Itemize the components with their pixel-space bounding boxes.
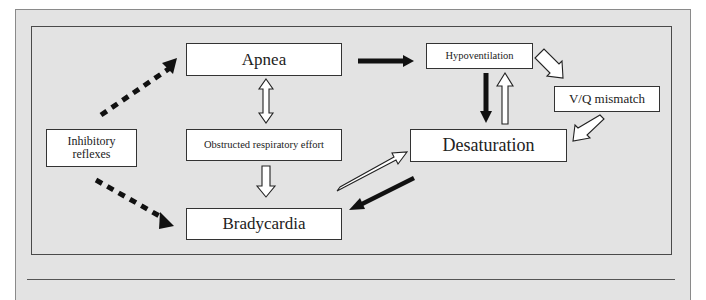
hollow-bidirectional-arrow-apnea-obstructed — [259, 79, 273, 123]
solid-arrow-apnea-to-hypoventilation — [358, 55, 414, 67]
node-bradycardia-label: Bradycardia — [222, 215, 305, 233]
node-apnea-label: Apnea — [242, 51, 286, 69]
node-hypoventilation: Hypoventilation — [426, 43, 533, 69]
node-obstructed-label: Obstructed respiratory effort — [204, 139, 324, 150]
hollow-arrow-vq-to-desaturation — [573, 115, 604, 141]
node-hypoventilation-label: Hypoventilation — [445, 50, 513, 61]
hollow-arrow-hypoventilation-to-vq — [535, 49, 563, 78]
dotted-arrow-to-apnea — [101, 58, 177, 115]
solid-arrow-hypoventilation-to-desaturation — [480, 73, 492, 123]
hollow-arrow-desaturation-to-hypoventilation — [497, 73, 513, 124]
node-apnea: Apnea — [186, 43, 342, 76]
node-bradycardia: Bradycardia — [186, 208, 342, 240]
node-desaturation: Desaturation — [410, 129, 567, 162]
node-inhibitory-label: Inhibitory reflexes — [68, 135, 116, 160]
hollow-arrow-obstructed-to-bradycardia — [257, 166, 275, 197]
dotted-arrow-to-bradycardia — [96, 180, 174, 229]
node-inhibitory-reflexes: Inhibitory reflexes — [46, 129, 137, 167]
solid-arrow-desaturation-to-bradycardia — [349, 178, 414, 210]
node-desaturation-label: Desaturation — [443, 136, 535, 155]
node-vq-mismatch-label: V/Q mismatch — [569, 92, 645, 106]
node-obstructed-respiratory-effort: Obstructed respiratory effort — [186, 129, 342, 161]
node-vq-mismatch: V/Q mismatch — [554, 86, 660, 112]
